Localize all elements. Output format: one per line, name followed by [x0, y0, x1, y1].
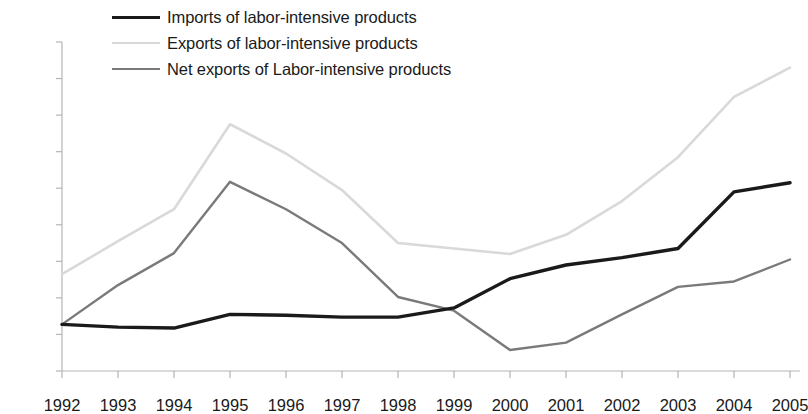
series-line-exports [62, 68, 790, 275]
series-line-net-exports [62, 182, 790, 350]
